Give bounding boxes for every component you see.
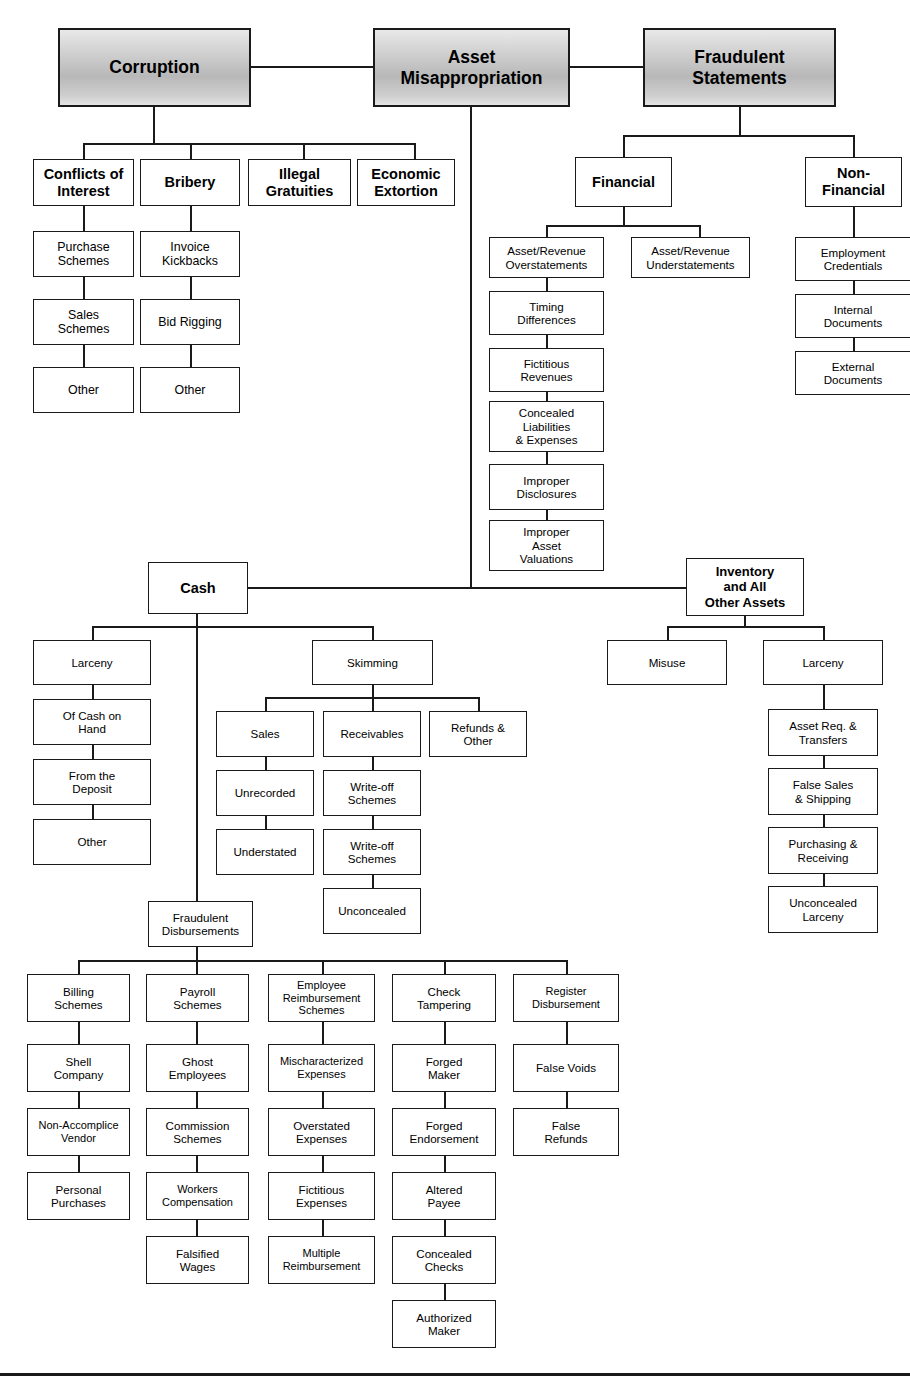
connector-conflicts-1 bbox=[83, 206, 85, 231]
node-inventory-larceny[interactable]: Larceny bbox=[763, 640, 883, 685]
node-payroll-schemes[interactable]: PayrollSchemes bbox=[146, 974, 249, 1022]
connector-cash-larceny-3 bbox=[92, 805, 94, 819]
node-write-off-schemes-a[interactable]: Write-offSchemes bbox=[323, 770, 421, 816]
node-conflicts-other[interactable]: Other bbox=[33, 367, 134, 413]
node-asset-revenue-understatements[interactable]: Asset/RevenueUnderstatements bbox=[631, 237, 750, 278]
node-from-the-deposit[interactable]: From theDeposit bbox=[33, 759, 151, 805]
node-workers-compensation-line1: Workers bbox=[160, 1183, 235, 1196]
node-purchasing-receiving-line1: Purchasing & bbox=[787, 837, 860, 850]
node-employee-reimbursement-schemes[interactable]: EmployeeReimbursementSchemes bbox=[268, 974, 375, 1022]
node-skimming-receivables[interactable]: Receivables bbox=[323, 711, 421, 757]
node-unconcealed-larceny-line1: Unconcealed bbox=[787, 896, 859, 909]
node-skimming[interactable]: Skimming bbox=[312, 640, 433, 685]
node-personal-purchases[interactable]: PersonalPurchases bbox=[27, 1172, 130, 1220]
node-unrecorded-label: Unrecorded bbox=[233, 786, 298, 799]
node-concealed-liabilities-line1: Concealed bbox=[514, 406, 580, 419]
node-falsified-wages[interactable]: FalsifiedWages bbox=[146, 1236, 249, 1284]
node-timing-differences[interactable]: TimingDifferences bbox=[489, 291, 604, 335]
node-asset-req-transfers-line1: Asset Req. & bbox=[787, 719, 859, 732]
node-write-off-schemes-a-line2: Schemes bbox=[346, 793, 398, 806]
node-purchasing-receiving[interactable]: Purchasing &Receiving bbox=[768, 827, 878, 874]
node-asset-misappropriation-line1: Asset bbox=[399, 47, 545, 67]
connector-billing-3 bbox=[78, 1156, 80, 1172]
node-sales-schemes-line1: Sales bbox=[56, 308, 112, 322]
node-refunds-other[interactable]: Refunds &Other bbox=[429, 711, 527, 757]
node-external-documents[interactable]: ExternalDocuments bbox=[795, 351, 910, 395]
node-false-voids[interactable]: False Voids bbox=[513, 1044, 619, 1092]
node-of-cash-on-hand[interactable]: Of Cash onHand bbox=[33, 699, 151, 745]
node-personal-purchases-line2: Purchases bbox=[49, 1196, 108, 1209]
node-sales-schemes[interactable]: SalesSchemes bbox=[33, 299, 134, 345]
connector-cash-drop-skimming bbox=[372, 626, 374, 640]
node-non-accomplice-vendor[interactable]: Non-AccompliceVendor bbox=[27, 1108, 130, 1156]
node-ghost-employees[interactable]: GhostEmployees bbox=[146, 1044, 249, 1092]
node-authorized-maker[interactable]: AuthorizedMaker bbox=[392, 1300, 496, 1348]
node-understated[interactable]: Understated bbox=[216, 829, 314, 875]
node-cash-larceny[interactable]: Larceny bbox=[33, 640, 151, 685]
node-financial[interactable]: Financial bbox=[575, 157, 672, 207]
node-commission-schemes[interactable]: CommissionSchemes bbox=[146, 1108, 249, 1156]
node-improper-disclosures[interactable]: ImproperDisclosures bbox=[489, 464, 604, 510]
node-illegal-gratuities[interactable]: IllegalGratuities bbox=[248, 159, 351, 206]
node-asset-revenue-overstatements[interactable]: Asset/RevenueOverstatements bbox=[489, 237, 604, 278]
node-mischaracterized-expenses[interactable]: MischaracterizedExpenses bbox=[268, 1044, 375, 1092]
node-internal-documents[interactable]: InternalDocuments bbox=[795, 294, 910, 338]
node-non-financial[interactable]: Non-Financial bbox=[805, 157, 902, 207]
node-bribery[interactable]: Bribery bbox=[140, 159, 240, 206]
node-unconcealed-larceny[interactable]: UnconcealedLarceny bbox=[768, 886, 878, 933]
node-purchase-schemes[interactable]: PurchaseSchemes bbox=[33, 231, 134, 277]
node-conflicts-of-interest-line1: Conflicts of bbox=[42, 166, 126, 183]
node-corruption[interactable]: Corruption bbox=[58, 28, 251, 107]
node-multiple-reimbursement[interactable]: MultipleReimbursement bbox=[268, 1236, 375, 1284]
node-bid-rigging[interactable]: Bid Rigging bbox=[140, 299, 240, 345]
node-falsified-wages-line1: Falsified bbox=[174, 1247, 221, 1260]
node-shell-company[interactable]: ShellCompany bbox=[27, 1044, 130, 1092]
node-billing-schemes[interactable]: BillingSchemes bbox=[27, 974, 130, 1022]
node-fraudulent-disbursements[interactable]: FraudulentDisbursements bbox=[148, 901, 253, 947]
connector-receivables-1 bbox=[372, 757, 374, 770]
node-personal-purchases-line1: Personal bbox=[49, 1183, 108, 1196]
connector-cash-inventory-trunk bbox=[247, 587, 752, 589]
node-unconcealed[interactable]: Unconcealed bbox=[323, 888, 421, 934]
node-non-accomplice-vendor-line1: Non-Accomplice bbox=[36, 1119, 120, 1132]
node-forged-maker[interactable]: ForgedMaker bbox=[392, 1044, 496, 1092]
connector-employee-4 bbox=[322, 1220, 324, 1236]
node-concealed-liabilities-expenses[interactable]: ConcealedLiabilities& Expenses bbox=[489, 401, 604, 452]
node-inventory-and-all-other-assets[interactable]: Inventory and All Other Assets bbox=[686, 558, 804, 616]
node-bribery-other-label: Other bbox=[173, 383, 208, 397]
node-overstated-expenses[interactable]: OverstatedExpenses bbox=[268, 1108, 375, 1156]
node-false-refunds[interactable]: FalseRefunds bbox=[513, 1108, 619, 1156]
node-economic-extortion[interactable]: EconomicExtortion bbox=[357, 159, 455, 206]
connector-payroll-3 bbox=[196, 1156, 198, 1172]
node-misuse[interactable]: Misuse bbox=[607, 640, 727, 685]
node-forged-endorsement[interactable]: ForgedEndorsement bbox=[392, 1108, 496, 1156]
node-unrecorded[interactable]: Unrecorded bbox=[216, 770, 314, 816]
node-ghost-employees-line2: Employees bbox=[167, 1068, 228, 1081]
node-skimming-sales-label: Sales bbox=[248, 727, 281, 740]
node-altered-payee[interactable]: AlteredPayee bbox=[392, 1172, 496, 1220]
node-concealed-checks[interactable]: ConcealedChecks bbox=[392, 1236, 496, 1284]
node-cash-larceny-other[interactable]: Other bbox=[33, 819, 151, 865]
node-write-off-schemes-b[interactable]: Write-offSchemes bbox=[323, 829, 421, 875]
node-cash[interactable]: Cash bbox=[148, 562, 248, 614]
node-skimming-sales[interactable]: Sales bbox=[216, 711, 314, 757]
node-fictitious-expenses[interactable]: FictitiousExpenses bbox=[268, 1172, 375, 1220]
node-write-off-schemes-b-line1: Write-off bbox=[346, 839, 398, 852]
node-bribery-other[interactable]: Other bbox=[140, 367, 240, 413]
node-conflicts-of-interest[interactable]: Conflicts ofInterest bbox=[33, 159, 134, 206]
node-register-disbursement[interactable]: RegisterDisbursement bbox=[513, 974, 619, 1022]
node-employment-credentials[interactable]: EmploymentCredentials bbox=[795, 237, 910, 281]
node-improper-asset-valuations[interactable]: ImproperAssetValuations bbox=[489, 520, 604, 571]
connector-disb-drop-payroll bbox=[196, 960, 198, 974]
node-workers-compensation[interactable]: WorkersCompensation bbox=[146, 1172, 249, 1220]
node-fictitious-revenues[interactable]: FictitiousRevenues bbox=[489, 348, 604, 392]
node-fraudulent-statements[interactable]: Fraudulent Statements bbox=[643, 28, 836, 107]
node-improper-asset-valuations-line2: Asset bbox=[518, 539, 575, 552]
node-asset-req-transfers[interactable]: Asset Req. &Transfers bbox=[768, 709, 878, 756]
node-register-disbursement-line1: Register bbox=[530, 985, 602, 998]
node-false-sales-shipping[interactable]: False Sales& Shipping bbox=[768, 768, 878, 815]
connector-conflicts-2 bbox=[83, 277, 85, 299]
node-invoice-kickbacks[interactable]: InvoiceKickbacks bbox=[140, 231, 240, 277]
node-check-tampering[interactable]: CheckTampering bbox=[392, 974, 496, 1022]
node-asset-misappropriation[interactable]: Asset Misappropriation bbox=[373, 28, 570, 107]
